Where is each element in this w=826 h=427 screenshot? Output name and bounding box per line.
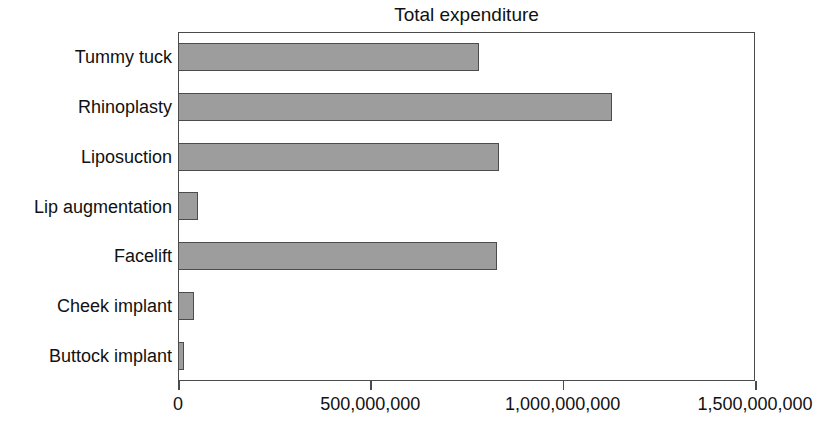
bar <box>178 143 499 171</box>
bar <box>178 242 497 270</box>
bar-row <box>178 132 755 182</box>
x-axis-tick-label: 1,500,000,000 <box>697 393 812 415</box>
bar-row <box>178 281 755 331</box>
bars-layer <box>178 32 755 381</box>
y-axis-tick-label: Liposuction <box>0 146 172 168</box>
bar <box>178 43 479 71</box>
bar-row <box>178 82 755 132</box>
y-axis-tick-label: Buttock implant <box>0 345 172 367</box>
bar <box>178 292 194 320</box>
x-axis-tick-label: 0 <box>173 393 183 415</box>
y-axis-tick-label: Tummy tuck <box>0 46 172 68</box>
y-axis-tick-label: Lip augmentation <box>0 196 172 218</box>
bar-row <box>178 32 755 82</box>
x-axis-tick-label: 1,000,000,000 <box>505 393 620 415</box>
bar <box>178 342 184 370</box>
bar-row <box>178 231 755 281</box>
chart-title: Total expenditure <box>178 3 755 27</box>
x-axis-tick-mark <box>563 381 565 390</box>
y-axis-tick-label: Rhinoplasty <box>0 96 172 118</box>
bar <box>178 93 612 121</box>
x-axis-tick-label: 500,000,000 <box>320 393 420 415</box>
y-axis-tick-label: Facelift <box>0 245 172 267</box>
bar <box>178 192 198 220</box>
bar-row <box>178 182 755 232</box>
y-axis-labels: Tummy tuckRhinoplastyLiposuctionLip augm… <box>0 32 172 381</box>
x-axis-tick-mark <box>178 381 180 390</box>
x-axis: 0500,000,0001,000,000,0001,500,000,000 <box>0 381 826 427</box>
x-axis-tick-mark <box>755 381 757 390</box>
chart-figure: Total expenditure Tummy tuckRhinoplastyL… <box>0 0 826 427</box>
y-axis-tick-label: Cheek implant <box>0 295 172 317</box>
bar-row <box>178 331 755 381</box>
x-axis-tick-mark <box>370 381 372 390</box>
